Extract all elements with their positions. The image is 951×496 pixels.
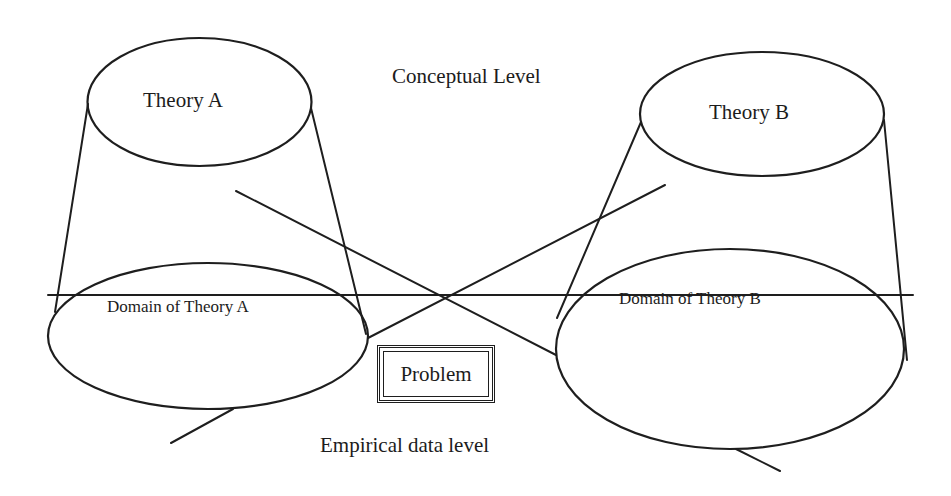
conceptual-level-label: Conceptual Level xyxy=(392,66,541,87)
empirical-level-label: Empirical data level xyxy=(320,435,489,456)
theory-b-cone-right-edge xyxy=(884,120,907,360)
problem-label: Problem xyxy=(400,364,471,385)
theory-a-cone-left-edge xyxy=(55,104,88,312)
problem-box: Problem xyxy=(377,345,495,403)
theory-a-label: Theory A xyxy=(143,90,223,111)
domain-b-tail xyxy=(736,449,780,471)
domain-a-tail xyxy=(171,409,233,443)
domain-b-ellipse xyxy=(556,249,904,449)
theory-a-cone-right-edge xyxy=(311,108,366,334)
cross-line-a-to-b xyxy=(236,191,556,355)
domain-b-label: Domain of Theory B xyxy=(619,290,761,307)
domain-a-label: Domain of Theory A xyxy=(107,298,249,315)
cross-line-b-to-a xyxy=(368,185,665,338)
theory-b-label: Theory B xyxy=(709,102,789,123)
domain-a-ellipse xyxy=(48,263,368,409)
